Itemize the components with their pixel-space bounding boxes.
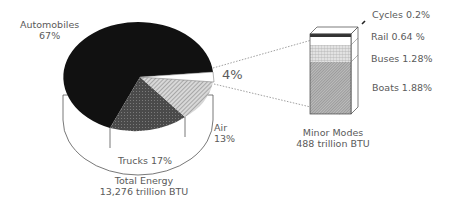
pie-subtitle-text: 13,276 trillion BTU <box>88 186 200 197</box>
pie-title-text: Total Energy <box>88 175 200 186</box>
label-air-pct: 13% <box>214 133 235 144</box>
label-trucks: Trucks 17% <box>118 155 172 166</box>
bar-subtitle-text: 488 trillion BTU <box>283 138 383 149</box>
cycles-pointer <box>362 21 365 24</box>
label-air: Air 13% <box>214 122 235 144</box>
label-automobiles: Automobiles 67% <box>20 19 79 41</box>
segment-buses <box>310 45 351 62</box>
label-minor-pct: 4% <box>222 68 243 82</box>
bar-title: Minor Modes 488 trillion BTU <box>283 127 383 149</box>
label-boats: Boats 1.88% <box>372 82 432 93</box>
label-buses: Buses 1.28% <box>371 53 432 64</box>
label-automobiles-pct: 67% <box>20 30 79 41</box>
label-cycles: Cycles 0.2% <box>372 9 430 20</box>
segment-rail <box>310 37 351 45</box>
segment-boats <box>310 62 351 114</box>
pie-title: Total Energy 13,276 trillion BTU <box>88 175 200 197</box>
label-air-name: Air <box>214 122 235 133</box>
stacked-bar <box>310 21 365 114</box>
bar-title-text: Minor Modes <box>283 127 383 138</box>
segment-cycles <box>310 34 351 37</box>
label-rail: Rail 0.64 % <box>371 31 425 42</box>
label-automobiles-name: Automobiles <box>20 19 79 30</box>
